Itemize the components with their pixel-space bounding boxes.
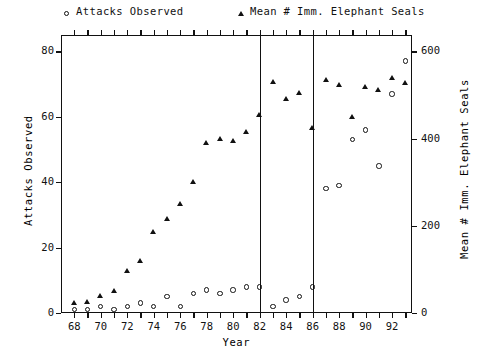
data-point-seals: [84, 299, 90, 304]
y-tick-left: [56, 248, 61, 249]
y-tick-label-right: 200: [421, 219, 451, 231]
data-point-seals: [375, 87, 381, 92]
y-tick-label-right: 400: [421, 132, 451, 144]
x-tick-label: 72: [120, 320, 134, 332]
data-point-attacks: [138, 300, 143, 305]
y-tick-left: [56, 51, 61, 52]
data-point-attacks: [125, 304, 130, 309]
x-tick-top: [87, 30, 88, 35]
data-point-seals: [243, 129, 249, 134]
x-tick-top: [233, 30, 234, 35]
y-tick-right: [412, 139, 417, 140]
x-tick-top: [180, 30, 181, 35]
x-tick-bottom: [74, 313, 75, 318]
vline-1986: [313, 36, 314, 313]
x-tick-top: [326, 30, 327, 35]
x-axis-label: Year: [223, 336, 251, 348]
data-point-seals: [402, 80, 408, 85]
x-tick-label: 86: [306, 320, 320, 332]
plot-area: [61, 35, 412, 313]
data-point-attacks: [230, 287, 235, 292]
data-point-seals: [362, 84, 368, 89]
x-tick-bottom: [114, 313, 115, 318]
x-tick-top: [154, 30, 155, 35]
x-tick-label: 88: [332, 320, 346, 332]
circle-marker-icon: [64, 11, 69, 16]
x-tick-bottom: [352, 313, 353, 318]
data-point-seals: [111, 288, 117, 293]
x-tick-top: [101, 30, 102, 35]
data-point-seals: [270, 79, 276, 84]
data-point-seals: [217, 136, 223, 141]
data-point-attacks: [217, 291, 222, 296]
data-point-seals: [150, 229, 156, 234]
y-axis-left-label: Attacks Observed: [22, 115, 34, 226]
x-tick-bottom: [379, 313, 380, 318]
data-point-attacks: [310, 284, 315, 289]
x-tick-top: [379, 30, 380, 35]
data-point-attacks: [363, 127, 368, 132]
data-point-seals: [97, 293, 103, 298]
x-tick-label: 78: [200, 320, 214, 332]
x-tick-bottom: [101, 313, 102, 318]
y-tick-right: [412, 51, 417, 52]
x-tick-label: 80: [226, 320, 240, 332]
x-tick-bottom: [167, 313, 168, 318]
x-tick-bottom: [326, 313, 327, 318]
x-tick-bottom: [193, 313, 194, 318]
x-tick-bottom: [339, 313, 340, 318]
x-tick-label: 68: [67, 320, 81, 332]
y-axis-right-label: Mean # Imm. Elephant Seals: [458, 79, 470, 259]
legend-mean-imm-elephant-seals: Mean # Imm. Elephant Seals: [250, 5, 425, 17]
x-tick-bottom: [140, 313, 141, 318]
chart-figure: Attacks ObservedMean # Imm. Elephant Sea…: [0, 0, 480, 352]
y-tick-label-left: 80: [28, 44, 54, 56]
x-tick-bottom: [313, 313, 314, 318]
data-point-seals: [164, 216, 170, 221]
x-tick-bottom: [220, 313, 221, 318]
data-point-attacks: [336, 183, 341, 188]
vline-1982: [260, 36, 261, 313]
y-tick-label-right: 0: [421, 306, 451, 318]
x-tick-top: [74, 30, 75, 35]
x-tick-bottom: [286, 313, 287, 318]
data-point-attacks: [244, 284, 249, 289]
x-tick-bottom: [154, 313, 155, 318]
data-point-attacks: [111, 307, 116, 312]
x-tick-top: [246, 30, 247, 35]
data-point-seals: [296, 90, 302, 95]
data-point-seals: [190, 179, 196, 184]
data-point-seals: [323, 77, 329, 82]
x-tick-bottom: [260, 313, 261, 318]
data-point-seals: [389, 75, 395, 80]
y-tick-right: [412, 313, 417, 314]
data-point-seals: [137, 258, 143, 263]
legend-attacks-observed: Attacks Observed: [76, 5, 184, 17]
y-tick-right: [412, 226, 417, 227]
x-tick-top: [193, 30, 194, 35]
x-tick-top: [260, 30, 261, 35]
x-tick-top: [220, 30, 221, 35]
x-tick-top: [286, 30, 287, 35]
data-point-seals: [336, 82, 342, 87]
x-tick-top: [352, 30, 353, 35]
x-tick-top: [167, 30, 168, 35]
x-tick-bottom: [405, 313, 406, 318]
x-tick-top: [140, 30, 141, 35]
y-tick-label-left: 20: [28, 241, 54, 253]
x-tick-label: 84: [279, 320, 293, 332]
x-tick-top: [127, 30, 128, 35]
y-tick-label-left: 0: [28, 306, 54, 318]
y-tick-label-right: 600: [421, 44, 451, 56]
data-point-attacks: [323, 186, 328, 191]
data-point-attacks: [164, 294, 169, 299]
data-point-seals: [124, 268, 130, 273]
data-point-attacks: [389, 91, 394, 96]
x-tick-top: [392, 30, 393, 35]
data-point-seals: [349, 114, 355, 119]
x-tick-top: [339, 30, 340, 35]
data-point-seals: [256, 112, 262, 117]
data-point-seals: [283, 96, 289, 101]
y-tick-left: [56, 313, 61, 314]
data-point-attacks: [376, 163, 381, 168]
